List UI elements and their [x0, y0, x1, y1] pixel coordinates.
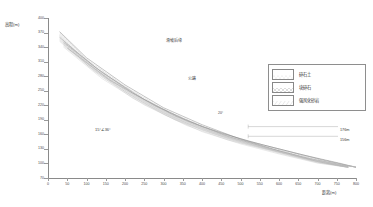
legend-item: 块碎石 — [272, 81, 362, 94]
legend-swatch-weathered-sandstone — [272, 95, 294, 106]
annotation-crest-angle: 20° — [218, 111, 223, 116]
legend-label: 强风化砂岩 — [299, 98, 319, 103]
elevation-leader-line — [248, 134, 338, 138]
legend: 碎石土 块碎石 强风化砂岩 — [268, 64, 366, 111]
legend-label: 碎石土 — [299, 72, 311, 77]
elevation-callout-156: 156m — [340, 138, 350, 142]
annotation-slope-angle: 15°∠36° — [95, 127, 111, 132]
legend-item: 强风化砂岩 — [272, 94, 362, 107]
elevation-callout-176: 176m — [340, 128, 350, 132]
annotation-road: 公路 — [188, 76, 196, 81]
elevation-leader-line — [248, 125, 338, 129]
legend-item: 碎石土 — [272, 68, 362, 81]
annotation-scarp: 滑坡后缘 — [166, 38, 182, 43]
legend-label: 块碎石 — [299, 85, 311, 90]
legend-swatch-block-rubble — [272, 82, 294, 93]
legend-swatch-gravel-soil — [272, 69, 294, 80]
geological-cross-section-chart: 高程(m) 距离(m) 7010013016019022025028031034… — [0, 0, 373, 207]
